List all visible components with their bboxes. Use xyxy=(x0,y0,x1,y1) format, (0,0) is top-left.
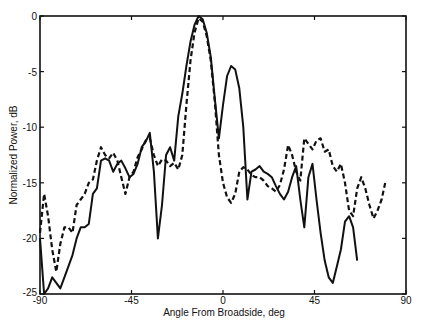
x-tick-label: 0 xyxy=(220,295,226,306)
x-tick-label: -90 xyxy=(33,295,48,306)
dashed-series-line xyxy=(40,18,386,272)
solid-series-line xyxy=(40,16,357,294)
x-tick-label: 45 xyxy=(309,295,321,306)
plot-frame xyxy=(40,16,406,294)
y-tick-label: -5 xyxy=(28,67,37,78)
x-axis-label: Angle From Broadside, deg xyxy=(163,307,285,318)
x-tick-label: 90 xyxy=(400,295,412,306)
y-tick-label: -20 xyxy=(23,233,38,244)
line-chart: 0-5-10-15-20-25 -90-4504590 Angle From B… xyxy=(0,0,422,326)
y-tick-label: 0 xyxy=(31,11,37,22)
x-axis-ticks: -90-4504590 xyxy=(33,16,412,306)
y-axis-ticks: 0-5-10-15-20-25 xyxy=(23,11,406,298)
y-tick-label: -15 xyxy=(23,178,38,189)
y-tick-label: -10 xyxy=(23,122,38,133)
y-axis-label: Normalized Power, dB xyxy=(8,105,19,204)
x-tick-label: -45 xyxy=(124,295,139,306)
